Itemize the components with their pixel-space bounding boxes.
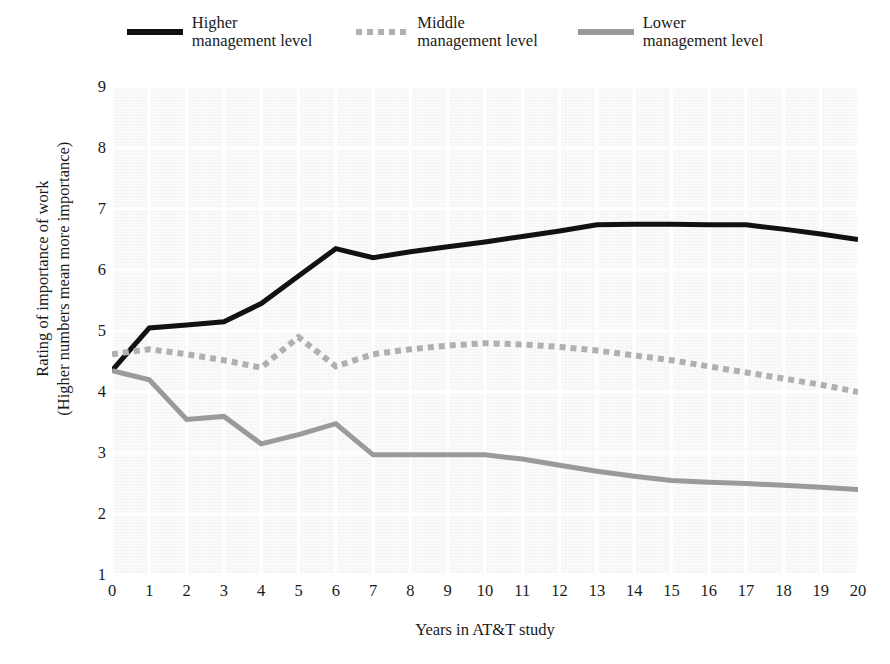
x-axis-tick-14: 14 <box>614 581 654 601</box>
x-axis-tick-3: 3 <box>204 581 244 601</box>
x-axis-tick-10: 10 <box>465 581 505 601</box>
x-axis-tick-2: 2 <box>167 581 207 601</box>
x-axis-tick-5: 5 <box>279 581 319 601</box>
x-axis-tick-6: 6 <box>316 581 356 601</box>
x-axis-tick-labels: 01234567891011121314151617181920 <box>0 0 890 664</box>
x-axis-tick-0: 0 <box>92 581 132 601</box>
x-axis-tick-15: 15 <box>652 581 692 601</box>
x-axis-tick-16: 16 <box>689 581 729 601</box>
x-axis-tick-17: 17 <box>726 581 766 601</box>
x-axis-tick-20: 20 <box>838 581 878 601</box>
chart-figure: Higher management level Middle managemen… <box>0 0 890 664</box>
x-axis-title: Years in AT&T study <box>112 620 858 640</box>
x-axis-tick-1: 1 <box>129 581 169 601</box>
x-axis-tick-4: 4 <box>241 581 281 601</box>
x-axis-tick-18: 18 <box>763 581 803 601</box>
x-axis-tick-12: 12 <box>540 581 580 601</box>
x-axis-tick-7: 7 <box>353 581 393 601</box>
x-axis-tick-19: 19 <box>801 581 841 601</box>
x-axis-tick-11: 11 <box>502 581 542 601</box>
x-axis-tick-8: 8 <box>390 581 430 601</box>
x-axis-tick-13: 13 <box>577 581 617 601</box>
x-axis-tick-9: 9 <box>428 581 468 601</box>
